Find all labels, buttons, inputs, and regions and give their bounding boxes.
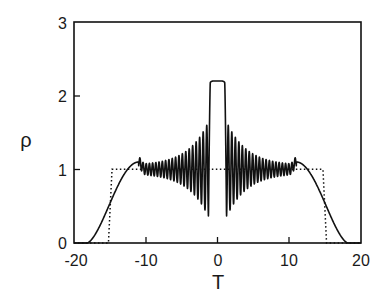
y-tick-label-3: 3 <box>58 15 67 32</box>
y-tick-label-0: 0 <box>58 235 67 252</box>
y-axis: 0 1 2 3 ρ <box>20 15 80 253</box>
chart: 0 1 2 3 ρ -20 -10 0 10 20 T <box>0 0 387 300</box>
x-tick-label-20: 20 <box>352 252 370 269</box>
x-tick-label-0: 0 <box>214 252 223 269</box>
y-axis-label: ρ <box>20 129 31 151</box>
x-axis-label: T <box>212 271 224 293</box>
x-tick-label-m10: -10 <box>134 252 157 269</box>
x-tick-label-m20: -20 <box>64 252 87 269</box>
series-oscillating-solid <box>74 81 361 243</box>
x-axis: -20 -10 0 10 20 T <box>64 237 370 293</box>
x-tick-label-10: 10 <box>280 252 298 269</box>
y-tick-label-2: 2 <box>58 88 67 105</box>
y-tick-label-1: 1 <box>58 162 67 179</box>
plot-frame <box>74 22 361 243</box>
series-step-dotted <box>74 169 361 243</box>
